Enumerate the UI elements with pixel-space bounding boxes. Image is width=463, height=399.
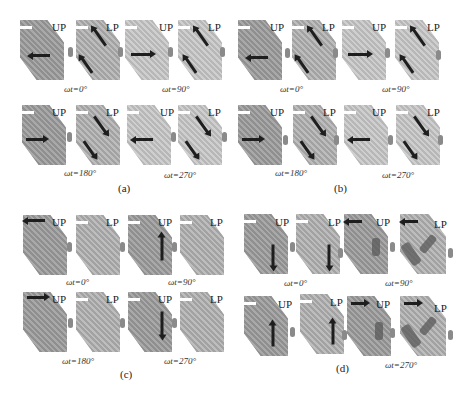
panel-label: (d): [336, 362, 349, 374]
probe-icon: [448, 248, 453, 258]
lp-label: LP: [208, 21, 221, 33]
panel-label: (b): [334, 182, 347, 194]
probe-icon: [171, 132, 176, 142]
phase-label: ωt=90°: [168, 277, 196, 287]
panel-a: UP LP ωt=0° UP LP ωt=90° UP LP ωt=180° U…: [0, 0, 230, 200]
probe-icon: [390, 242, 395, 252]
lp-label: LP: [434, 302, 447, 314]
probe-icon: [290, 242, 295, 252]
panel-label: (a): [118, 182, 130, 194]
arrow-down-icon: [328, 245, 331, 267]
lp-label: LP: [208, 106, 221, 118]
phase-label: ωt=270°: [164, 356, 196, 366]
lp-label: LP: [210, 293, 223, 305]
probe-icon: [285, 48, 290, 58]
probe-icon: [168, 47, 173, 57]
phase-label: ωt=90°: [382, 84, 410, 94]
up-label: UP: [372, 21, 386, 33]
up-label: UP: [372, 106, 386, 118]
panel-label: (c): [120, 368, 132, 380]
arrow-left-icon: [348, 220, 362, 223]
arrow-right-icon: [242, 138, 260, 141]
phase-label: ωt=0°: [280, 84, 303, 94]
phase-label: ωt=0°: [64, 84, 87, 94]
lp-label: LP: [106, 21, 119, 33]
probe-icon: [390, 328, 395, 338]
arrow-up-icon: [161, 237, 164, 261]
phase-label: ωt=270°: [385, 360, 417, 370]
arrow-right-icon: [131, 53, 151, 56]
arrow-right-icon: [351, 302, 365, 305]
probe-icon: [67, 242, 72, 252]
probe-icon: [388, 135, 393, 145]
phase-label: ωt=90°: [385, 278, 413, 288]
arrow-left-icon: [27, 219, 45, 222]
up-label: UP: [158, 216, 172, 228]
probe-icon: [436, 50, 441, 60]
arrow-right-icon: [404, 302, 418, 305]
lp-label: LP: [434, 218, 447, 230]
up-label: UP: [160, 106, 174, 118]
phase-label: ωt=180°: [64, 168, 96, 178]
arrow-left-icon: [135, 138, 153, 141]
lp-label: LP: [210, 216, 223, 228]
probe-icon: [438, 135, 443, 145]
lp-label: LP: [322, 21, 335, 33]
up-label: UP: [52, 106, 66, 118]
probe-icon: [283, 135, 288, 145]
up-label: UP: [278, 298, 292, 310]
probe-icon: [290, 327, 295, 337]
up-label: UP: [270, 21, 284, 33]
up-label: UP: [270, 106, 284, 118]
probe-icon: [68, 318, 73, 328]
lp-label: LP: [323, 106, 336, 118]
lp-label: LP: [106, 216, 119, 228]
up-label: UP: [376, 298, 390, 310]
probe-icon: [172, 242, 177, 252]
up-label: UP: [275, 216, 289, 228]
arrow-left-icon: [404, 220, 418, 223]
arrow-down-icon: [272, 245, 275, 267]
probe-icon: [68, 47, 73, 57]
lp-label: LP: [328, 216, 341, 228]
lp-label: LP: [427, 106, 440, 118]
arrow-left-icon: [250, 56, 268, 59]
probe-icon: [385, 48, 390, 58]
probe-icon: [333, 48, 338, 58]
panel-c: UP LP ωt=0° UP LP ωt=90° UP LP ωt=180° U…: [0, 200, 230, 375]
panel-d: UP LP ωt=0° UP LP ωt=90° UP LP UP: [230, 200, 463, 375]
arrow-right-icon: [348, 53, 368, 56]
lp-label: LP: [427, 21, 440, 33]
arrow-left-icon: [352, 138, 370, 141]
lp-label: LP: [106, 293, 119, 305]
arrow-left-icon: [32, 54, 50, 57]
arrow-right-icon: [26, 138, 44, 141]
probe-icon: [220, 47, 225, 57]
up-label: UP: [52, 216, 66, 228]
probe-icon: [448, 330, 453, 340]
phase-label: ωt=90°: [162, 84, 190, 94]
arrow-down-icon: [161, 312, 164, 336]
up-label: UP: [376, 216, 390, 228]
arrow-up-icon: [272, 325, 275, 347]
phase-label: ωt=270°: [164, 170, 196, 180]
probe-icon: [334, 135, 339, 145]
probe-icon: [120, 242, 125, 252]
panel-b: UP LP ωt=0° UP LP ωt=90° UP LP ωt=180° U…: [230, 0, 463, 200]
probe-icon: [118, 47, 123, 57]
up-label: UP: [52, 293, 66, 305]
phase-label: ωt=270°: [382, 170, 414, 180]
phase-label: ωt=180°: [62, 356, 94, 366]
probe-icon: [222, 132, 227, 142]
up-label: UP: [52, 21, 66, 33]
probe-icon: [338, 248, 343, 258]
probe-icon: [120, 318, 125, 328]
arrow-right-icon: [27, 296, 45, 299]
up-label: UP: [158, 293, 172, 305]
up-label: UP: [159, 21, 173, 33]
arrow-up-icon: [332, 323, 335, 345]
phase-label: ωt=0°: [284, 278, 307, 288]
lp-label: LP: [330, 296, 343, 308]
phase-label: ωt=180°: [275, 168, 307, 178]
lp-label: LP: [106, 106, 119, 118]
